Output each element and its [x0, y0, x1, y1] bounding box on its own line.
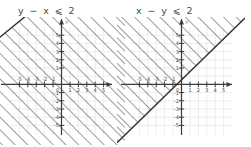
left-x-tick-label: -4 [25, 76, 30, 82]
panel-left: y − x ⩽ 2 [0, 0, 125, 147]
left-x-tick-label: 2 [77, 87, 80, 93]
right-x-tick-label: -4 [145, 76, 150, 82]
right-y-axis-label: y [186, 19, 189, 24]
left-y-tick-label: -5 [54, 122, 59, 128]
right-x-tick-label: 1 [188, 87, 191, 93]
left-y-tick-label: -3 [54, 106, 59, 112]
right-origin-label: 0 [176, 87, 179, 93]
left-x-tick-label: -3 [34, 76, 39, 82]
right-y-tick-label: -5 [174, 122, 179, 128]
right-y-tick-label: -4 [174, 114, 179, 120]
left-y-tick-label: 2 [56, 57, 59, 63]
left-x-tick-label: -5 [17, 76, 22, 82]
right-x-tick-label: -5 [137, 76, 142, 82]
left-y-tick-label: 5 [56, 32, 59, 38]
panel-right-plot: -5 -4 -3 -2 -1 1 2 3 4 5 5 4 3 2 1 [131, 27, 232, 135]
right-y-tick-label: 5 [176, 32, 179, 38]
right-y-tick-label: -3 [174, 106, 179, 112]
panel-left-plot: -5 -4 -3 -2 -1 1 2 3 4 5 5 4 3 2 [11, 27, 112, 135]
left-y-tick-label: -2 [54, 98, 59, 104]
left-x-tick-label: 3 [85, 87, 88, 93]
panel-right: x − y ⩽ 2 [126, 0, 251, 147]
right-x-tick-label: 5 [222, 87, 225, 93]
left-y-axis-label: y [66, 19, 69, 24]
right-x-tick-label: 2 [197, 87, 200, 93]
right-x-tick-label: 4 [214, 87, 217, 93]
left-x-tick-label: -1 [51, 76, 56, 82]
right-x-tick-label: -2 [162, 76, 167, 82]
left-origin-label: 0 [56, 87, 59, 93]
right-x-tick-label: 3 [205, 87, 208, 93]
right-y-tick-label: 1 [176, 65, 179, 71]
worksheet-canvas: y − x ⩽ 2 [0, 0, 251, 147]
right-x-tick-label: -3 [154, 76, 159, 82]
left-y-tick-label: 4 [56, 40, 59, 46]
left-y-tick-label: 1 [56, 65, 59, 71]
panel-right-title: x − y ⩽ 2 [136, 5, 194, 16]
right-y-tick-label: -2 [174, 98, 179, 104]
left-y-tick-label: -4 [54, 114, 59, 120]
left-x-tick-label: 4 [94, 87, 97, 93]
right-y-tick-label: 2 [176, 57, 179, 63]
right-y-tick-label: 4 [176, 40, 179, 46]
left-coordinate-plane: -5 -4 -3 -2 -1 1 2 3 4 5 5 4 3 2 [11, 27, 112, 135]
right-y-tick-label: 3 [176, 49, 179, 55]
panel-left-title: y − x ⩽ 2 [18, 5, 76, 16]
left-x-tick-label: -2 [42, 76, 47, 82]
left-y-tick-label: 3 [56, 49, 59, 55]
right-x-tick-label: -1 [171, 76, 176, 82]
left-x-tick-label: 5 [102, 87, 105, 93]
left-x-tick-label: 1 [68, 87, 71, 93]
right-coordinate-plane: -5 -4 -3 -2 -1 1 2 3 4 5 5 4 3 2 1 [131, 27, 232, 135]
